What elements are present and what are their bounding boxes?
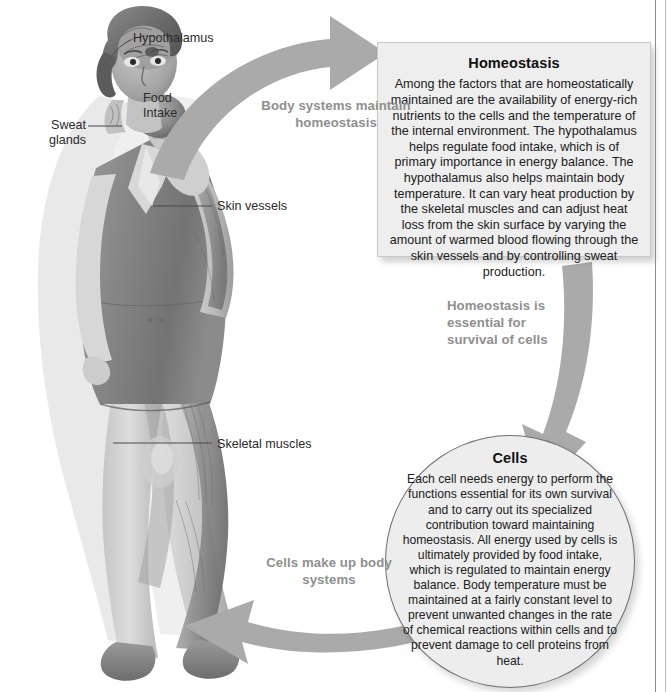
homeostasis-box-body: Among the factors that are homeostatical… <box>388 77 640 280</box>
cells-oval: Cells Each cell needs energy to perform … <box>385 435 635 688</box>
homeostasis-box-title: Homeostasis <box>388 55 640 72</box>
cells-oval-body: Each cell needs energy to perform the fu… <box>402 472 618 668</box>
homeostasis-cycle-figure: Homeostasis Among the factors that are h… <box>0 0 668 692</box>
anatomy-label-hypothalamus: Hypothalamus <box>133 31 214 46</box>
arrow-caption-homeostasis-essential: Homeostasis is essential for survival of… <box>447 297 577 348</box>
cells-oval-title: Cells <box>402 450 618 467</box>
anatomy-label-sweat-glands: Sweat glands <box>18 118 86 148</box>
homeostasis-box: Homeostasis Among the factors that are h… <box>377 42 651 257</box>
anatomy-label-skin-vessels: Skin vessels <box>217 199 287 214</box>
arrow-caption-cells-make-up: Cells make up body systems <box>262 554 396 588</box>
anatomy-label-food-intake: Food Intake <box>143 91 177 121</box>
arrow-caption-body-systems: Body systems maintain homeostasis <box>261 97 411 131</box>
page-margin-rule-outer <box>665 0 666 692</box>
page-margin-rule-inner <box>655 0 656 692</box>
anatomy-label-skeletal-muscles: Skeletal muscles <box>217 437 312 452</box>
